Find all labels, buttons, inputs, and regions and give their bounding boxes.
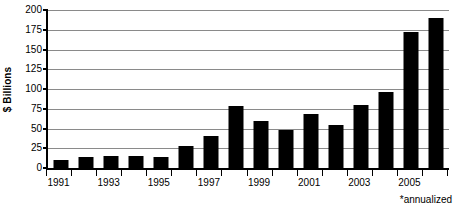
bar: [128, 156, 143, 168]
bar-slot: [73, 10, 98, 168]
bar-slot: [123, 10, 148, 168]
bar-slot: [374, 10, 399, 168]
y-axis-tick-label: 25: [14, 143, 42, 153]
bar: [254, 121, 269, 168]
bar: [53, 160, 68, 168]
x-axis-tick-label: 1991: [47, 177, 69, 189]
y-axis-tick-label: 75: [14, 104, 42, 114]
x-axis-tick-mark: [447, 170, 448, 176]
bar: [354, 105, 369, 168]
x-axis-tick-label: 1993: [98, 177, 120, 189]
bar: [329, 125, 344, 168]
bar: [404, 32, 419, 168]
bar-slot: [173, 10, 198, 168]
bar-slot: [424, 10, 449, 168]
y-axis-title-text: $ Billions: [3, 66, 14, 111]
bar: [228, 106, 243, 168]
bar-slot: [98, 10, 123, 168]
x-axis-tick-mark: [322, 170, 323, 176]
x-axis-tick-mark: [397, 170, 398, 176]
y-axis-tick-label: 175: [14, 25, 42, 35]
x-axis-tick-label: 1995: [148, 177, 170, 189]
x-axis-tick-label: 2003: [348, 177, 370, 189]
y-axis-tick-labels: 0255075100125150175200: [14, 0, 42, 178]
bar-slot: [299, 10, 324, 168]
x-axis-tick-mark: [196, 170, 197, 176]
x-axis-tick-mark: [121, 170, 122, 176]
x-axis-tick-label: 1997: [198, 177, 220, 189]
bar-slot: [198, 10, 223, 168]
bar-slot: [48, 10, 73, 168]
x-axis-tick-mark: [71, 170, 72, 176]
bar: [153, 157, 168, 168]
y-axis-tick-label: 0: [14, 163, 42, 173]
bar-slot: [274, 10, 299, 168]
y-axis-tick-label: 50: [14, 124, 42, 134]
y-axis-tick-label: 100: [14, 84, 42, 94]
bar: [103, 156, 118, 168]
bar: [78, 157, 93, 168]
bar: [203, 136, 218, 168]
x-axis-tick-mark: [46, 170, 47, 176]
bar-slot: [148, 10, 173, 168]
x-axis-tick-mark: [221, 170, 222, 176]
bar-chart: $ Billions 0255075100125150175200 199119…: [0, 0, 455, 214]
x-axis-tick-mark: [372, 170, 373, 176]
x-axis-tick-label: 2005: [398, 177, 420, 189]
bar: [178, 146, 193, 168]
bar: [279, 130, 294, 168]
bar: [304, 114, 319, 168]
x-axis-tick-mark: [297, 170, 298, 176]
bar-slot: [249, 10, 274, 168]
x-axis-ticks: [46, 170, 447, 176]
bar: [379, 92, 394, 168]
y-axis-tick-label: 150: [14, 45, 42, 55]
x-axis-tick-mark: [247, 170, 248, 176]
bar-series: [48, 10, 449, 168]
x-axis-tick-mark: [171, 170, 172, 176]
x-axis-tick-label: 2001: [298, 177, 320, 189]
x-axis-tick-mark: [272, 170, 273, 176]
y-axis-tick-label: 125: [14, 64, 42, 74]
x-axis-tick-mark: [146, 170, 147, 176]
bar-slot: [324, 10, 349, 168]
x-axis-tick-mark: [422, 170, 423, 176]
plot-area: [46, 10, 449, 170]
bar-slot: [399, 10, 424, 168]
x-axis-tick-mark: [96, 170, 97, 176]
y-axis-tick-label: 200: [14, 5, 42, 15]
x-axis-tick-label: 1999: [248, 177, 270, 189]
x-axis-tick-labels: 19911993199519971999200120032005: [46, 177, 447, 191]
x-axis-tick-mark: [347, 170, 348, 176]
bar: [429, 18, 444, 168]
bar-slot: [223, 10, 248, 168]
bar-slot: [349, 10, 374, 168]
chart-footnote: *annualized: [400, 194, 452, 205]
